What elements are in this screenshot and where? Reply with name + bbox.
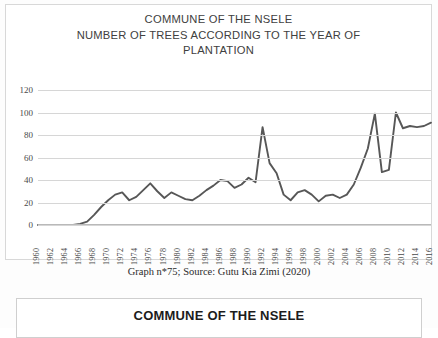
chart-figure-1: COMMUNE OF THE NSELE NUMBER OF TREES ACC… (5, 4, 432, 260)
gridline-60 (38, 158, 431, 159)
x-axis-tick-1962: 1962 (46, 248, 55, 265)
x-axis-tick-1978: 1978 (159, 248, 168, 265)
gridline-120 (38, 90, 431, 91)
chart-plot-area: 020406080100120 (38, 90, 431, 225)
x-axis-tick-2008: 2008 (369, 248, 378, 265)
chart-2-title: COMMUNE OF THE NSELE (17, 308, 421, 323)
chart-title-line-1: COMMUNE OF THE NSELE (6, 12, 431, 28)
gridline-100 (38, 113, 431, 114)
x-axis-tick-1960: 1960 (32, 248, 41, 265)
x-axis-tick-2002: 2002 (327, 248, 336, 265)
y-axis-tick-60: 60 (24, 153, 33, 163)
chart-figure-2: COMMUNE OF THE NSELE (16, 298, 422, 338)
x-axis-tick-1972: 1972 (116, 248, 125, 265)
y-axis-tick-40: 40 (24, 175, 33, 185)
chart-title: COMMUNE OF THE NSELE NUMBER OF TREES ACC… (6, 12, 431, 59)
x-axis-tick-1998: 1998 (299, 248, 308, 265)
x-axis-tick-1980: 1980 (173, 248, 182, 265)
x-axis-tick-1986: 1986 (215, 248, 224, 265)
x-axis-tick-1990: 1990 (243, 248, 252, 265)
y-axis-tick-120: 120 (20, 85, 34, 95)
y-axis-tick-80: 80 (24, 130, 33, 140)
x-axis-tick-1970: 1970 (102, 248, 111, 265)
y-axis-tick-20: 20 (24, 198, 33, 208)
chart-title-line-3: PLANTATION (6, 43, 431, 59)
x-axis-tick-1976: 1976 (144, 248, 153, 265)
x-axis-tick-2012: 2012 (397, 248, 406, 265)
x-axis-tick-1974: 1974 (130, 248, 139, 265)
x-axis-tick-2000: 2000 (313, 248, 322, 265)
gridline-20 (38, 203, 431, 204)
gridline-0 (38, 225, 431, 226)
x-axis-tick-1988: 1988 (229, 248, 238, 265)
x-axis-labels: 1960196219641966196819701972197419761978… (38, 227, 431, 265)
chart-title-line-2: NUMBER OF TREES ACCORDING TO THE YEAR OF (6, 28, 431, 44)
x-axis-tick-1994: 1994 (271, 248, 280, 265)
x-axis-tick-1964: 1964 (60, 248, 69, 265)
x-axis-tick-1984: 1984 (201, 248, 210, 265)
series-line (38, 113, 431, 226)
y-axis-tick-0: 0 (29, 220, 34, 230)
x-axis-tick-1966: 1966 (74, 248, 83, 265)
x-axis-tick-1992: 1992 (257, 248, 266, 265)
gridline-40 (38, 180, 431, 181)
x-axis-tick-2014: 2014 (411, 248, 420, 265)
x-axis-tick-2016: 2016 (425, 248, 434, 265)
gridline-80 (38, 135, 431, 136)
x-axis-tick-1982: 1982 (187, 248, 196, 265)
x-axis-tick-2006: 2006 (355, 248, 364, 265)
x-axis-tick-1968: 1968 (88, 248, 97, 265)
figure-caption: Graph n*75; Source: Gutu Kia Zimi (2020) (0, 266, 438, 277)
x-axis-tick-1996: 1996 (285, 248, 294, 265)
x-axis-tick-2010: 2010 (383, 248, 392, 265)
y-axis-tick-100: 100 (20, 108, 34, 118)
x-axis-tick-2004: 2004 (341, 248, 350, 265)
